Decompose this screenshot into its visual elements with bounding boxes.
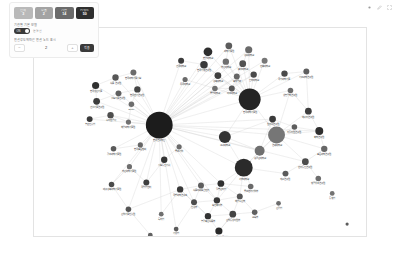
graph-node[interactable] (109, 182, 115, 188)
graph-node[interactable] (143, 180, 149, 186)
graph-node-label: 정보통신기획 (158, 163, 170, 167)
graph-node[interactable] (130, 70, 136, 76)
graph-node[interactable] (177, 186, 183, 192)
graph-node-label: 화학연구원 (314, 135, 324, 139)
graph-node[interactable] (200, 61, 208, 69)
graph-node[interactable] (252, 209, 258, 215)
dot-icon[interactable] (367, 5, 372, 10)
graph-node[interactable] (183, 77, 188, 82)
stepper-value: 2 (27, 45, 65, 50)
graph-node[interactable] (229, 85, 235, 91)
graph-node[interactable] (215, 72, 222, 79)
toggle-row[interactable]: ON 연결선 (14, 28, 94, 34)
graph-node[interactable] (178, 58, 184, 64)
graph-node[interactable] (223, 59, 229, 65)
toggle-state-label: ON (17, 30, 21, 33)
graph-node[interactable] (248, 184, 254, 190)
graph-node[interactable] (205, 213, 211, 219)
graph-node[interactable] (215, 227, 222, 234)
graph-node[interactable] (234, 74, 240, 80)
graph-node-label: 아주대학교 (227, 91, 238, 95)
graph-node[interactable] (177, 144, 182, 149)
graph-node-label: 식품의약품안전처 (193, 188, 209, 192)
graph-toolbar[interactable] (367, 5, 392, 10)
graph-node[interactable] (159, 212, 164, 217)
graph-node-label: 산림청 (276, 206, 282, 210)
graph-node[interactable] (268, 127, 285, 144)
graph-node[interactable] (107, 112, 113, 118)
edit-icon[interactable] (377, 5, 382, 10)
stat-card-label: 추출 (36, 9, 53, 12)
graph-node-label: 전북대학교 (260, 64, 271, 68)
stat-card[interactable]: 키워드50 (76, 7, 95, 19)
depth-label: 연결강도에따른 연결 노드 표시 (14, 38, 94, 42)
graph-edge (159, 119, 272, 125)
graph-node[interactable] (217, 180, 224, 187)
graph-node[interactable] (239, 60, 246, 67)
connection-toggle[interactable]: ON (14, 28, 30, 34)
graph-node-label: 생명공학연구원 (283, 93, 297, 97)
graph-node[interactable] (237, 193, 243, 199)
graph-node[interactable] (134, 86, 140, 92)
edge-layer (90, 46, 325, 235)
apply-button[interactable]: 적용 (80, 44, 94, 52)
graph-node[interactable] (87, 116, 93, 122)
depth-stepper[interactable]: − 2 + 적용 (14, 44, 94, 52)
graph-node[interactable] (262, 58, 268, 64)
graph-node[interactable] (191, 199, 197, 205)
graph-node[interactable] (235, 159, 253, 177)
graph-node[interactable] (245, 46, 252, 53)
graph-node[interactable] (93, 98, 100, 105)
graph-node[interactable] (212, 86, 218, 92)
increment-button[interactable]: + (67, 44, 78, 52)
graph-node[interactable] (330, 191, 335, 196)
graph-edge (201, 185, 217, 200)
graph-node[interactable] (321, 146, 327, 152)
graph-node[interactable] (161, 157, 167, 163)
graph-node[interactable] (269, 116, 276, 123)
graph-canvas[interactable]: 한국연구재단한국과학기술원서울대학교연세대학교고려대학교성균관대학교한양대학교과… (33, 27, 367, 237)
graph-node[interactable] (292, 124, 298, 130)
network-graph[interactable]: 한국연구재단한국과학기술원서울대학교연세대학교고려대학교성균관대학교한양대학교과… (34, 28, 366, 236)
graph-node[interactable] (214, 197, 220, 203)
graph-node[interactable] (288, 88, 294, 94)
graph-node[interactable] (225, 42, 232, 49)
graph-node[interactable] (303, 69, 309, 75)
graph-node[interactable] (127, 164, 132, 169)
graph-node[interactable] (146, 112, 173, 139)
control-panel[interactable]: 전체3추출2기관14키워드50 기관별 기본 모델 ON 연결선 연결강도에따른… (9, 2, 99, 58)
decrement-button[interactable]: − (14, 44, 25, 52)
stat-card-label: 키워드 (77, 9, 94, 12)
graph-node-label: 충남대학교 (238, 67, 249, 71)
graph-node[interactable] (92, 82, 99, 89)
graph-node[interactable] (198, 183, 204, 189)
graph-node[interactable] (305, 108, 312, 115)
graph-node[interactable] (126, 120, 131, 125)
stat-card[interactable]: 전체3 (14, 7, 33, 19)
graph-node[interactable] (346, 223, 349, 226)
graph-node[interactable] (302, 158, 309, 165)
graph-node[interactable] (315, 127, 323, 135)
graph-node[interactable] (239, 88, 261, 110)
graph-node[interactable] (112, 74, 118, 80)
graph-node-label: 농림축산식품부 (201, 219, 216, 223)
graph-edge (194, 200, 217, 202)
graph-node[interactable] (316, 176, 322, 182)
graph-node[interactable] (204, 47, 213, 56)
stat-card[interactable]: 기관14 (55, 7, 74, 19)
graph-node[interactable] (255, 146, 265, 156)
expand-icon[interactable] (387, 5, 392, 10)
graph-node[interactable] (250, 71, 256, 77)
graph-node[interactable] (116, 90, 122, 96)
graph-node[interactable] (219, 131, 231, 143)
graph-node[interactable] (276, 201, 281, 206)
stat-card[interactable]: 추출2 (35, 7, 54, 19)
graph-node[interactable] (138, 142, 143, 147)
graph-node[interactable] (281, 70, 287, 76)
graph-node[interactable] (126, 206, 132, 212)
graph-node[interactable] (111, 146, 117, 152)
graph-node[interactable] (229, 211, 236, 218)
graph-node[interactable] (283, 171, 289, 177)
graph-node[interactable] (174, 227, 179, 232)
graph-node[interactable] (129, 101, 135, 107)
